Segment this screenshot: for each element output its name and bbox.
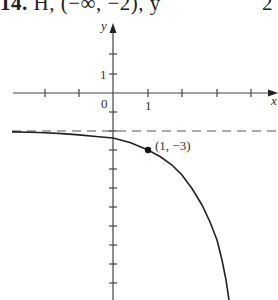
x-axis-label: x xyxy=(270,93,277,108)
y-tick-label-1: 1 xyxy=(100,67,107,82)
graph: y x 0 1 1 (1, −3) xyxy=(0,0,278,300)
y-axis-label: y xyxy=(99,18,107,33)
x-axis xyxy=(13,89,278,97)
x-tick-label-1: 1 xyxy=(145,98,152,113)
origin-label: 0 xyxy=(101,96,108,111)
y-axis-arrow-icon xyxy=(110,23,117,33)
y-axis xyxy=(109,23,117,300)
function-curve xyxy=(12,132,229,300)
marked-point xyxy=(145,147,151,153)
point-label: (1, −3) xyxy=(155,138,191,153)
